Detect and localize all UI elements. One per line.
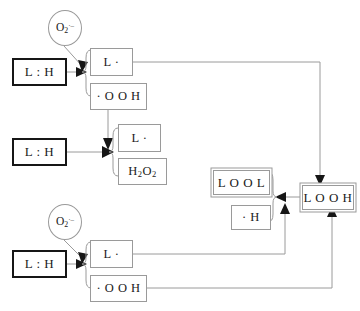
superoxide-formula-top: O2·– xyxy=(56,21,74,35)
looh-box: L O O H xyxy=(302,185,354,210)
lh-box-bottom: L : H xyxy=(12,250,67,278)
superoxide-radical-bottom: O2·– xyxy=(48,204,82,240)
lh-box-middle: L : H xyxy=(12,138,67,166)
superoxide-radical-top: O2·– xyxy=(48,10,82,46)
arrowhead-lbot-lool xyxy=(280,203,290,214)
l-radical-box-bottom: L · xyxy=(90,240,133,268)
ooh-box-top: · O O H xyxy=(90,83,147,110)
hydrogen-peroxide-formula: H2O2 xyxy=(128,164,157,179)
l-radical-box-top: L · xyxy=(90,48,133,76)
lh-box-top: L : H xyxy=(12,58,67,86)
lool-box: L O O L xyxy=(213,170,270,195)
reaction-diagram-canvas: O2·– L : H L · · O O H L : H L · H2O2 L … xyxy=(0,0,360,311)
ooh-box-bottom: · O O H xyxy=(90,275,147,302)
l-radical-box-middle: L · xyxy=(118,124,161,152)
h-radical-box: · H xyxy=(231,205,271,230)
superoxide-formula-bottom: O2·– xyxy=(56,215,74,229)
hydrogen-peroxide-box: H2O2 xyxy=(118,158,167,185)
